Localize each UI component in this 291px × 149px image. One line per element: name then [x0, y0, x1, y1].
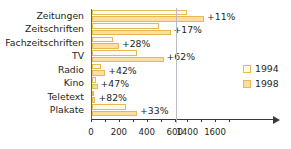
category-label: Zeitungen: [36, 11, 84, 21]
bar-1994: [92, 91, 94, 97]
bar-chart: ZeitungenZeitschriftenFachzeitschriftenT…: [0, 0, 291, 149]
bar-1994: [92, 10, 187, 16]
bar-1998: [92, 57, 163, 63]
category-label: TV: [72, 51, 84, 61]
category-label: Plakate: [50, 105, 84, 115]
bar-value-label: +47%: [101, 78, 129, 89]
bar-value-label: +28%: [122, 38, 150, 49]
bar-1994: [92, 77, 95, 83]
bar-1998: [92, 16, 204, 22]
legend-swatch-1998: [243, 80, 251, 88]
x-axis-tick-label: 400: [133, 127, 161, 137]
category-label: Radio: [58, 65, 84, 75]
bar-1994: [92, 64, 101, 70]
x-axis-minor-tick: [105, 119, 106, 122]
legend-swatch-1994: [243, 65, 251, 73]
bar-value-label: +11%: [207, 11, 235, 22]
bar-1994: [92, 23, 159, 29]
category-axis-labels: ZeitungenZeitschriftenFachzeitschriftenT…: [0, 9, 87, 117]
legend-item: 1994: [243, 62, 291, 77]
x-axis-tick-label: 200: [105, 127, 133, 137]
bar-1994: [92, 50, 137, 56]
category-label: Fachzeitschriften: [5, 38, 84, 48]
bar-1998: [92, 43, 119, 49]
x-axis-minor-tick: [201, 119, 202, 122]
axis-break-line: [176, 8, 177, 123]
chart-legend: 19941998: [243, 62, 291, 92]
bar-1998: [92, 70, 105, 76]
x-axis-minor-tick: [161, 119, 162, 122]
category-label: Teletext: [48, 92, 84, 102]
x-axis-tick: [175, 119, 176, 122]
value-axis-arrow-icon: [273, 116, 280, 124]
x-axis-tick: [215, 119, 216, 122]
x-axis-tick-label: 1400: [173, 127, 201, 137]
bar-1994: [92, 104, 125, 110]
x-axis-minor-tick: [133, 119, 134, 122]
x-axis-tick: [91, 119, 92, 122]
bar-value-label: +17%: [174, 24, 202, 35]
bar-value-label: +82%: [98, 92, 126, 103]
legend-label: 1994: [255, 62, 279, 75]
x-axis-tick: [119, 119, 120, 122]
category-label: Zeitschriften: [25, 24, 84, 34]
legend-item: 1998: [243, 77, 291, 92]
bar-value-label: +62%: [167, 51, 195, 62]
bar-value-label: +33%: [140, 105, 168, 116]
bar-value-label: +42%: [108, 65, 136, 76]
x-axis-tick-label: 0: [77, 127, 105, 137]
legend-label: 1998: [255, 77, 279, 90]
x-axis-tick: [147, 119, 148, 122]
bar-1998: [92, 97, 95, 103]
bar-1998: [92, 30, 170, 36]
x-axis-minor-tick: [229, 119, 230, 122]
bar-1998: [92, 84, 97, 90]
x-axis-tick-label: 1600: [201, 127, 229, 137]
x-axis-tick: [187, 119, 188, 122]
bar-1994: [92, 37, 113, 43]
category-label: Kino: [64, 78, 84, 88]
bar-1998: [92, 111, 137, 117]
